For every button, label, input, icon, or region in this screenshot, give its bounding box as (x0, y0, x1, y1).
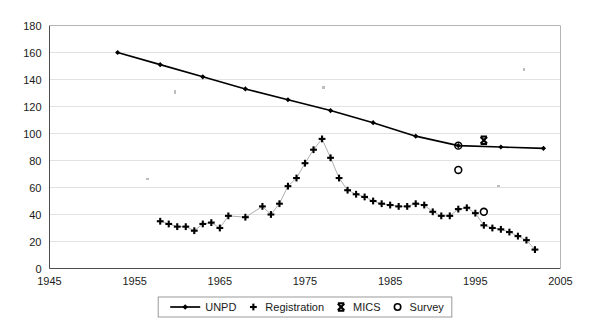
data-point-unpd (243, 86, 248, 91)
data-point-survey (455, 167, 462, 174)
series-line-registration (160, 139, 535, 250)
artifact-speck (497, 185, 500, 187)
data-point-unpd (413, 134, 418, 139)
y-axis-tick-labels: 180160140120100806040200 (23, 20, 41, 275)
data-point-unpd (328, 108, 333, 113)
data-point-unpd (200, 74, 205, 79)
artifact-speck (322, 86, 325, 89)
y-tick-label: 20 (29, 236, 41, 248)
data-point-unpd (158, 62, 163, 67)
chart-legend: UNPDRegistrationMICSSurvey (158, 297, 452, 317)
y-tick-label: 140 (23, 74, 41, 86)
chart-canvas: 180160140120100806040200 194519551965197… (0, 0, 594, 333)
legend-label-survey: Survey (410, 301, 445, 313)
x-axis-tick-labels: 1945195519651975198519952005 (37, 275, 572, 287)
x-tick-label: 1995 (463, 275, 487, 287)
y-tick-label: 40 (29, 209, 41, 221)
data-point-unpd (285, 97, 290, 102)
y-tick-label: 0 (35, 263, 41, 275)
x-tick-label: 1955 (122, 275, 146, 287)
series-registration (157, 136, 539, 254)
series-survey (455, 142, 487, 215)
legend-label-unpd: UNPD (205, 301, 236, 313)
x-tick-label: 1965 (208, 275, 232, 287)
x-tick-label: 1945 (37, 275, 61, 287)
series-mics (481, 137, 487, 144)
data-point-unpd (371, 120, 376, 125)
x-tick-label: 2005 (548, 275, 572, 287)
y-tick-label: 180 (23, 20, 41, 32)
data-point-unpd (498, 144, 503, 149)
y-tick-label: 100 (23, 128, 41, 140)
legend-label-registration: Registration (265, 301, 324, 313)
series-layer (115, 50, 546, 253)
y-tick-label: 60 (29, 182, 41, 194)
artifact-speck (174, 90, 176, 94)
artifact-speck (523, 68, 525, 71)
x-tick-label: 1975 (293, 275, 317, 287)
y-tick-label: 120 (23, 101, 41, 113)
legend-label-mics: MICS (353, 301, 381, 313)
data-point-unpd (115, 50, 120, 55)
x-tick-label: 1985 (378, 275, 402, 287)
data-point-unpd (541, 146, 546, 151)
y-tick-label: 160 (23, 47, 41, 59)
y-tick-label: 80 (29, 155, 41, 167)
chart-container: 180160140120100806040200 194519551965197… (0, 0, 594, 333)
data-point-unpd (456, 143, 461, 148)
artifact-speck (146, 178, 149, 180)
